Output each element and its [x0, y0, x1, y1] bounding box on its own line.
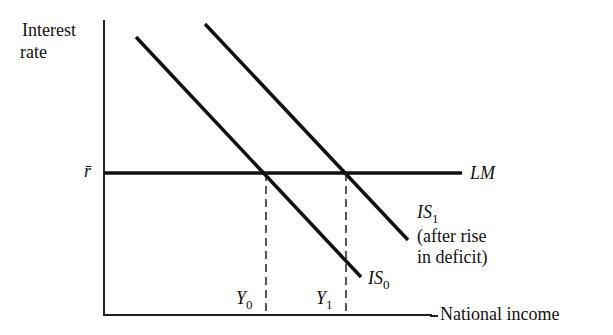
is1-note-line1: (after rise: [417, 226, 486, 246]
rbar-label: r̄: [84, 161, 91, 181]
islm-diagram: [0, 0, 613, 335]
x-axis-label-text: National income: [440, 304, 559, 324]
y-axis-label-line2: rate: [20, 42, 47, 62]
y0-label: Y0: [236, 288, 253, 310]
y1-label-sub: 1: [326, 297, 333, 312]
y1-label-text: Y: [316, 288, 326, 308]
lm-label: LM: [470, 163, 495, 183]
is1-curve: [205, 24, 408, 240]
y-axis-label-line1: Interest: [22, 20, 76, 40]
is0-label-text: IS: [368, 268, 383, 288]
is1-note-line2: in deficit): [417, 247, 487, 267]
y1-label: Y1: [316, 288, 333, 310]
is0-label-sub: 0: [383, 277, 390, 292]
x-axis-label-dash: [430, 315, 438, 317]
x-axis-label: National income: [430, 304, 559, 324]
is1-label: IS1: [417, 202, 439, 224]
is1-label-text: IS: [417, 202, 432, 222]
is0-label: IS0: [368, 268, 390, 290]
is0-curve: [136, 37, 361, 277]
y0-label-text: Y: [236, 288, 246, 308]
y0-label-sub: 0: [246, 297, 253, 312]
is1-label-sub: 1: [432, 211, 439, 226]
